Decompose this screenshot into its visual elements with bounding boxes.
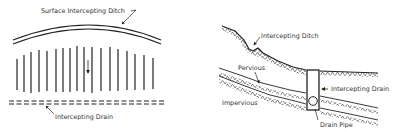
intercepting-drain-label: Intercepting Drain <box>55 113 113 121</box>
drain-leader-arrow <box>46 106 54 114</box>
drain-pipe-label: Drain Pipe <box>320 121 353 129</box>
impervious-label: Impervious <box>222 99 258 107</box>
intercepting-ditch-label: Intercepting Ditch <box>261 32 319 40</box>
surface-ditch-label: Surface Intercepting Ditch <box>41 7 125 15</box>
intercepting-drain-dashed <box>9 101 166 104</box>
drain-pipe-leader <box>315 109 318 120</box>
pervious-label: Pervious <box>238 64 266 72</box>
drain-pipe-icon <box>309 97 318 106</box>
cross-section-view: Intercepting Ditch Pervious Impervious I… <box>219 26 389 129</box>
plan-view: Surface Intercepting Ditch <box>9 7 166 121</box>
vertical-drain-lines <box>17 46 153 93</box>
drainage-diagram: Surface Intercepting Ditch <box>0 0 395 132</box>
ditch-leader-arrow <box>254 37 260 45</box>
surface-intercepting-ditch <box>13 25 161 44</box>
intercepting-drain-label-right: Intercepting Drain <box>331 85 389 93</box>
